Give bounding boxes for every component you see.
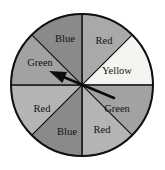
sector-label-yellow: Yellow bbox=[102, 65, 132, 76]
sector-label-green-2: Green bbox=[27, 57, 53, 68]
sector-label-red-2: Red bbox=[94, 124, 112, 135]
sector-label-blue-2: Blue bbox=[55, 33, 75, 44]
sector-label-red-3: Red bbox=[34, 103, 52, 114]
sector-label-green-1: Green bbox=[104, 103, 130, 114]
sector-label-blue-1: Blue bbox=[57, 126, 77, 137]
sector-label-red-1: Red bbox=[96, 35, 114, 46]
spinner-figure: Red Yellow Green Red Blue Red Green Blue bbox=[0, 0, 165, 170]
spinner-wheel-graphic[interactable]: Red Yellow Green Red Blue Red Green Blue bbox=[0, 0, 165, 170]
